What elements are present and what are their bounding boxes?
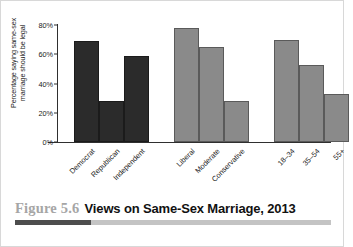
caption-text-line: Figure 5.6Views on Same-Sex Marriage, 20… <box>15 199 296 217</box>
y-axis-tick-mark <box>54 112 58 113</box>
x-axis-category-label-text: 35–54 <box>300 146 322 168</box>
bar <box>274 40 299 142</box>
bar <box>199 47 224 142</box>
bar <box>174 28 199 142</box>
x-axis-category-label-text: 18–34 <box>275 146 297 168</box>
caption-accent-bar <box>15 220 331 225</box>
x-axis-category-label-text: 55+ <box>331 146 347 162</box>
x-axis-category-label-text: Liberal <box>174 146 197 169</box>
accent-bar-dark-segment <box>15 220 91 225</box>
y-axis-title: Percentage saying same-sex marriage shou… <box>9 0 39 133</box>
bar-chart: Percentage saying same-sex marriage shou… <box>1 1 345 194</box>
y-axis-tick-mark <box>54 83 58 84</box>
figure-caption: Figure 5.6Views on Same-Sex Marriage, 20… <box>1 194 345 247</box>
x-axis-line <box>48 142 331 143</box>
caption-title: Views on Same-Sex Marriage, 2013 <box>85 201 296 216</box>
accent-bar-light-segment <box>91 220 331 225</box>
plot-area: 0%20%40%60%80% <box>58 25 330 142</box>
bar <box>74 41 99 142</box>
y-axis-tick-mark <box>54 25 58 26</box>
y-axis-tick-mark <box>54 142 58 143</box>
bar <box>299 65 324 143</box>
y-axis-tick-mark <box>54 54 58 55</box>
caption-figure-number: Figure 5.6 <box>15 200 80 216</box>
